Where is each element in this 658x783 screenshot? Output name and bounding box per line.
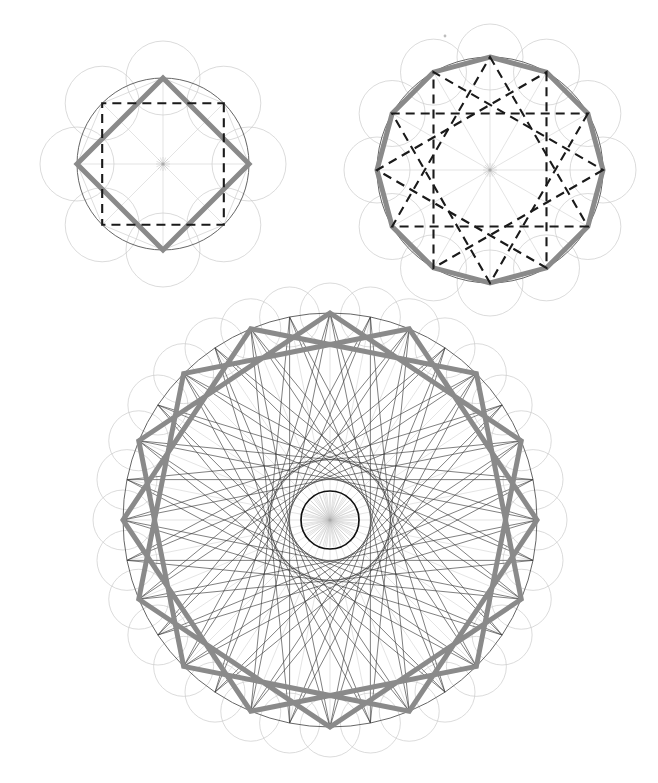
annotations-group xyxy=(444,35,447,38)
spoke-10 xyxy=(392,114,490,171)
center-hub xyxy=(483,163,497,177)
figure-thirtytwo-gon-star xyxy=(93,283,567,757)
spoke-3 xyxy=(163,164,224,225)
geometry-diagram-canvas xyxy=(0,0,658,783)
figure-sheet xyxy=(0,0,658,783)
center-point xyxy=(161,162,164,165)
spoke-11 xyxy=(434,72,491,170)
stray-ink-speck xyxy=(444,35,447,38)
figure-dodecagon-star xyxy=(344,24,636,316)
spoke-7 xyxy=(102,103,163,164)
spoke-1 xyxy=(163,103,224,164)
figure-octagon-square xyxy=(40,41,286,287)
center-hub xyxy=(156,157,170,171)
center-point xyxy=(488,168,491,171)
center-point xyxy=(328,518,331,521)
spoke-5 xyxy=(102,164,163,225)
center-hub xyxy=(303,493,357,547)
spoke-1 xyxy=(490,72,547,170)
